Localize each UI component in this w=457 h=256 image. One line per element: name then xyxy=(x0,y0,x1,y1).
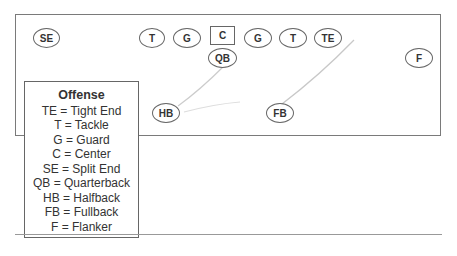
player-tight-end: TE xyxy=(314,28,342,48)
legend-item: T = Tackle xyxy=(25,118,138,133)
legend-item: SE = Split End xyxy=(25,162,138,177)
player-left-tackle: T xyxy=(139,28,165,48)
player-halfback: HB xyxy=(152,103,180,123)
player-quarterback: QB xyxy=(208,48,237,68)
player-right-guard: G xyxy=(244,28,272,48)
player-left-guard: G xyxy=(173,28,201,48)
legend-item: FB = Fullback xyxy=(25,205,138,220)
legend-item: G = Guard xyxy=(25,133,138,148)
divider-line xyxy=(15,234,442,235)
player-right-tackle: T xyxy=(279,28,307,48)
legend-item: F = Flanker xyxy=(25,220,138,235)
legend-item: QB = Quarterback xyxy=(25,176,138,191)
player-center: C xyxy=(210,26,235,45)
player-split-end: SE xyxy=(33,28,60,48)
legend-item: TE = Tight End xyxy=(25,104,138,119)
player-flanker: F xyxy=(405,48,433,68)
player-fullback: FB xyxy=(266,103,294,123)
legend-item: HB = Halfback xyxy=(25,191,138,206)
legend-box: Offense TE = Tight End T = Tackle G = Gu… xyxy=(24,81,139,238)
legend-title: Offense xyxy=(25,88,138,103)
legend-item: C = Center xyxy=(25,147,138,162)
